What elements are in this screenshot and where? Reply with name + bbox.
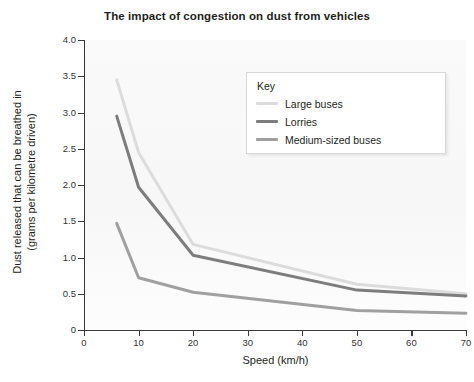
legend-swatch-icon bbox=[256, 120, 278, 123]
x-tick-label-70: 70 bbox=[446, 337, 474, 348]
x-tick-label-60: 60 bbox=[391, 337, 431, 348]
x-tick-label-30: 30 bbox=[228, 337, 268, 348]
y-tick-label-2.0: 2.0 bbox=[36, 179, 76, 190]
y-tick-label-1.5: 1.5 bbox=[36, 215, 76, 226]
chart-container: The impact of congestion on dust from ve… bbox=[0, 0, 474, 382]
y-axis-title: Dust released that can be breathed in (g… bbox=[10, 32, 38, 332]
y-axis-title-line-1: Dust released that can be breathed in bbox=[10, 32, 24, 332]
x-tick-label-50: 50 bbox=[337, 337, 377, 348]
y-tick-label-0.5: 0.5 bbox=[36, 288, 76, 299]
y-tick-4.0 bbox=[78, 40, 84, 41]
x-tick-label-40: 40 bbox=[282, 337, 322, 348]
y-axis-line bbox=[84, 40, 85, 331]
x-tick-label-10: 10 bbox=[119, 337, 159, 348]
x-tick-60 bbox=[411, 330, 412, 336]
legend-item-lorries: Lorries bbox=[256, 114, 437, 129]
legend-title: Key bbox=[257, 80, 437, 92]
x-tick-50 bbox=[357, 330, 358, 336]
legend-item-label: Lorries bbox=[285, 116, 317, 128]
y-tick-3.5 bbox=[78, 76, 84, 77]
x-axis-title: Speed (km/h) bbox=[84, 354, 467, 366]
legend-box: Key Large busesLorriesMedium-sized buses bbox=[246, 72, 446, 154]
x-tick-label-20: 20 bbox=[173, 337, 213, 348]
y-tick-1.0 bbox=[78, 258, 84, 259]
legend-item-large-buses: Large buses bbox=[256, 96, 437, 111]
legend-item-label: Large buses bbox=[285, 98, 343, 110]
y-tick-label-3.0: 3.0 bbox=[36, 107, 76, 118]
y-tick-label-2.5: 2.5 bbox=[36, 143, 76, 154]
legend-swatch-icon bbox=[256, 138, 278, 141]
x-tick-10 bbox=[139, 330, 140, 336]
y-tick-1.5 bbox=[78, 221, 84, 222]
y-tick-3.0 bbox=[78, 113, 84, 114]
y-axis-title-line-2: (grams per kilometre driven) bbox=[24, 32, 38, 332]
legend-item-medium-sized-buses: Medium-sized buses bbox=[256, 132, 437, 147]
y-tick-2.0 bbox=[78, 185, 84, 186]
y-tick-0.5 bbox=[78, 294, 84, 295]
y-tick-label-1.0: 1.0 bbox=[36, 252, 76, 263]
x-tick-70 bbox=[466, 330, 467, 336]
legend-swatch-icon bbox=[256, 102, 278, 105]
y-tick-label-3.5: 3.5 bbox=[36, 70, 76, 81]
x-axis-line bbox=[84, 330, 467, 331]
y-tick-2.5 bbox=[78, 149, 84, 150]
legend-item-label: Medium-sized buses bbox=[285, 134, 381, 146]
x-tick-0 bbox=[84, 330, 85, 336]
x-tick-40 bbox=[302, 330, 303, 336]
legend-items: Large busesLorriesMedium-sized buses bbox=[256, 96, 437, 147]
y-tick-label-0: 0 bbox=[36, 324, 76, 335]
x-tick-label-0: 0 bbox=[64, 337, 104, 348]
x-tick-20 bbox=[193, 330, 194, 336]
x-tick-30 bbox=[248, 330, 249, 336]
y-tick-label-4.0: 4.0 bbox=[36, 34, 76, 45]
